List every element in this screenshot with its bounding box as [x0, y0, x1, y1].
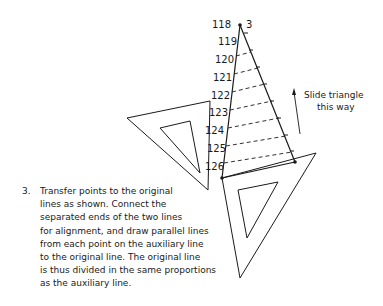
top-point	[238, 23, 242, 27]
slide-note-line-1: Slide triangle	[304, 90, 364, 100]
scale-label: 119	[218, 36, 237, 47]
scale-label: 123	[209, 107, 228, 118]
construction-triangle	[222, 25, 295, 178]
caption-line: from each point on the auxiliary line	[40, 238, 242, 251]
scale-label: 120	[215, 54, 234, 65]
top-label-suffix: 3	[246, 19, 252, 30]
scale-label: 125	[207, 143, 226, 154]
caption-line: is thus divided in the same proportions	[40, 264, 242, 277]
scale-labels: 118 3 119 120 121 122 123 124 125 126	[205, 19, 252, 172]
scale-label: 121	[213, 72, 232, 83]
caption-line: separated ends of the two lines	[40, 211, 242, 224]
step-caption: 3. Transfer points to the original lines…	[22, 185, 242, 291]
tick-marks	[244, 33, 294, 151]
arrow-up-icon	[292, 88, 296, 95]
caption-line: Transfer points to the original	[40, 185, 242, 198]
step-number: 3.	[22, 185, 31, 198]
scale-label: 118	[212, 19, 231, 30]
original-line	[240, 25, 295, 162]
scale-label: 126	[205, 161, 224, 172]
caption-line: for alignment, and draw parallel lines	[40, 225, 242, 238]
caption-line: lines as shown. Connect the	[40, 198, 242, 211]
slide-note-line-2: this way	[317, 102, 355, 112]
scale-label: 124	[205, 125, 224, 136]
scale-label: 122	[211, 90, 230, 101]
auxiliary-line	[222, 25, 240, 178]
slide-arrow	[292, 88, 300, 134]
caption-line: as the auxiliary line.	[40, 277, 242, 290]
bottom-right-point	[293, 160, 297, 164]
caption-line: to the original line. The original line	[40, 251, 242, 264]
left-set-square	[127, 101, 210, 190]
